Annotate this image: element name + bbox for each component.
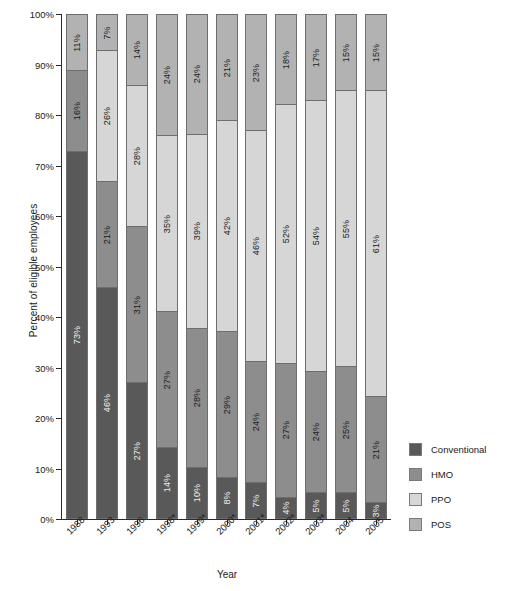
legend-item-label: HMO bbox=[431, 469, 453, 480]
bar-segment-value-label: 24% bbox=[251, 413, 261, 431]
legend-item[interactable]: HMO bbox=[409, 462, 486, 487]
bar-stack: 18%52%27%4% bbox=[275, 14, 297, 519]
bar-segment-value-label: 27% bbox=[281, 421, 291, 439]
legend-item-label: Conventional bbox=[431, 444, 486, 455]
bar-segment[interactable]: 11% bbox=[67, 15, 87, 71]
bar-segment[interactable]: 23% bbox=[246, 15, 266, 131]
bar-segment[interactable]: 24% bbox=[306, 372, 326, 493]
bar-segment[interactable]: 21% bbox=[97, 182, 117, 288]
bar-segment[interactable]: 24% bbox=[157, 15, 177, 136]
bar-segment[interactable]: 26% bbox=[97, 51, 117, 182]
bar-segment[interactable]: 31% bbox=[127, 227, 147, 383]
y-axis-tick-label: 10% bbox=[14, 463, 54, 474]
y-axis-tick-mark bbox=[56, 216, 61, 217]
bar-segment-value-label: 21% bbox=[102, 225, 112, 243]
bar-segment[interactable]: 18% bbox=[276, 15, 296, 105]
y-axis-tick-mark bbox=[56, 418, 61, 419]
y-axis-tick-mark bbox=[56, 267, 61, 268]
plot-area: 11%16%73%7%26%21%46%14%28%31%27%24%35%27… bbox=[62, 14, 391, 519]
bar-column[interactable]: 23%46%24%7% bbox=[245, 14, 267, 519]
bar-segment[interactable]: 24% bbox=[246, 362, 266, 483]
bar-column[interactable]: 17%54%24%5% bbox=[305, 14, 327, 519]
bar-segment[interactable]: 27% bbox=[157, 312, 177, 448]
bar-segment[interactable]: 7% bbox=[246, 483, 266, 518]
bar-segment[interactable]: 17% bbox=[306, 15, 326, 101]
bar-segment-value-label: 27% bbox=[162, 370, 172, 388]
bar-segment[interactable]: 46% bbox=[97, 288, 117, 518]
bar-column[interactable]: 7%26%21%46% bbox=[96, 14, 118, 519]
y-axis-tick-label: 80% bbox=[14, 110, 54, 121]
bar-segment[interactable]: 55% bbox=[336, 91, 356, 367]
bar-segment[interactable]: 14% bbox=[127, 15, 147, 86]
bar-segment[interactable]: 21% bbox=[366, 397, 386, 503]
bar-segment[interactable]: 52% bbox=[276, 105, 296, 363]
bar-segment[interactable]: 28% bbox=[187, 329, 207, 469]
bar-segment-value-label: 14% bbox=[132, 41, 142, 59]
bar-segment[interactable]: 39% bbox=[187, 135, 207, 329]
bar-segment[interactable]: 35% bbox=[157, 136, 177, 312]
bar-segment-value-label: 46% bbox=[102, 394, 112, 412]
bar-segment-value-label: 21% bbox=[222, 58, 232, 76]
bar-segment[interactable]: 15% bbox=[366, 15, 386, 91]
y-axis-tick-mark bbox=[56, 469, 61, 470]
bar-segment[interactable]: 73% bbox=[67, 152, 87, 518]
bar-segment-value-label: 16% bbox=[72, 102, 82, 120]
bar-segment[interactable]: 16% bbox=[67, 71, 87, 152]
bar-segment[interactable]: 46% bbox=[246, 131, 266, 362]
bar-segment[interactable]: 14% bbox=[157, 448, 177, 518]
bar-stack: 14%28%31%27% bbox=[126, 14, 148, 519]
bar-column[interactable]: 15%61%21%3% bbox=[365, 14, 387, 519]
y-axis-tick-label: 40% bbox=[14, 312, 54, 323]
bar-segment[interactable]: 28% bbox=[127, 86, 147, 227]
bar-segment-value-label: 10% bbox=[192, 484, 202, 502]
legend-item-label: POS bbox=[431, 519, 451, 530]
bar-segment[interactable]: 25% bbox=[336, 367, 356, 493]
bar-segment[interactable]: 21% bbox=[217, 15, 237, 121]
bar-segment[interactable]: 27% bbox=[127, 383, 147, 518]
bar-segment[interactable]: 10% bbox=[187, 468, 207, 518]
bar-segment[interactable]: 8% bbox=[217, 478, 237, 518]
y-axis-tick-mark bbox=[56, 368, 61, 369]
legend-item[interactable]: Conventional bbox=[409, 437, 486, 462]
y-axis-tick-label: 30% bbox=[14, 362, 54, 373]
y-axis-tick-mark bbox=[56, 317, 61, 318]
bar-segment-value-label: 14% bbox=[162, 474, 172, 492]
bar-segment-value-label: 55% bbox=[341, 219, 351, 237]
bar-segment-value-label: 39% bbox=[192, 222, 202, 240]
bar-segment-value-label: 8% bbox=[222, 491, 232, 504]
bar-column[interactable]: 14%28%31%27% bbox=[126, 14, 148, 519]
bar-column[interactable]: 21%42%29%8% bbox=[216, 14, 238, 519]
legend-item[interactable]: POS bbox=[409, 512, 486, 537]
bar-column[interactable]: 24%39%28%10% bbox=[186, 14, 208, 519]
bar-column[interactable]: 24%35%27%14% bbox=[156, 14, 178, 519]
y-axis-tick-label: 60% bbox=[14, 211, 54, 222]
chart-legend: ConventionalHMOPPOPOS bbox=[409, 437, 486, 537]
bar-segment-value-label: 5% bbox=[311, 499, 321, 512]
y-axis-tick-mark bbox=[56, 65, 61, 66]
bar-segment-value-label: 73% bbox=[72, 326, 82, 344]
bar-column[interactable]: 11%16%73% bbox=[66, 14, 88, 519]
x-axis-title: Year bbox=[62, 569, 392, 580]
bar-stack: 7%26%21%46% bbox=[96, 14, 118, 519]
bar-segment[interactable]: 15% bbox=[336, 15, 356, 91]
legend-item[interactable]: PPO bbox=[409, 487, 486, 512]
bar-segment-value-label: 46% bbox=[251, 237, 261, 255]
bar-segment-value-label: 35% bbox=[162, 214, 172, 232]
bar-segment[interactable]: 61% bbox=[366, 91, 386, 397]
bar-segment[interactable]: 54% bbox=[306, 101, 326, 372]
bar-segment-value-label: 52% bbox=[281, 225, 291, 243]
bar-stack: 15%61%21%3% bbox=[365, 14, 387, 519]
bar-segment-value-label: 28% bbox=[132, 147, 142, 165]
bar-column[interactable]: 15%55%25%5% bbox=[335, 14, 357, 519]
bar-segment[interactable]: 24% bbox=[187, 15, 207, 135]
bar-segment[interactable]: 7% bbox=[97, 15, 117, 51]
legend-swatch-icon bbox=[409, 468, 422, 481]
bar-stack: 11%16%73% bbox=[66, 14, 88, 519]
y-axis-tick-mark bbox=[56, 115, 61, 116]
bar-segment[interactable]: 29% bbox=[217, 332, 237, 478]
bar-segment-value-label: 7% bbox=[251, 494, 261, 507]
y-axis-tick-label: 70% bbox=[14, 160, 54, 171]
bar-segment[interactable]: 42% bbox=[217, 121, 237, 332]
bar-column[interactable]: 18%52%27%4% bbox=[275, 14, 297, 519]
bar-segment[interactable]: 27% bbox=[276, 364, 296, 499]
